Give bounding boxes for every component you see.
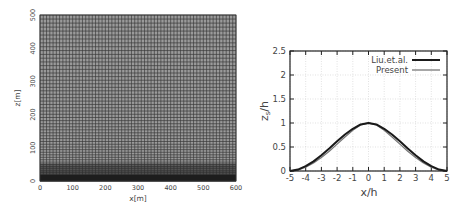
profile-y-tick: 0 bbox=[281, 166, 286, 176]
profile-x-tick: -5 bbox=[286, 173, 294, 183]
profile-plot: -5-4-3-2-1012345 00.511.522.5 Liu.et.al.… bbox=[258, 46, 450, 199]
profile-x-tick: -2 bbox=[333, 173, 341, 183]
profile-x-tick: -3 bbox=[317, 173, 325, 183]
mesh-y-tick-labels: 0100200300400500 bbox=[29, 9, 37, 183]
mesh-y-tick: 200 bbox=[29, 108, 37, 120]
profile-y-tick: 2.5 bbox=[272, 46, 286, 56]
profile-y-tick: 0.5 bbox=[272, 142, 286, 152]
profile-x-tick: 2 bbox=[397, 173, 402, 183]
profile-x-axis-label: x/h bbox=[360, 186, 377, 199]
mesh-y-axis-label: z[m] bbox=[13, 89, 22, 106]
mesh-x-tick-labels: 0100200300400500600 bbox=[38, 184, 242, 192]
mesh-x-tick: 400 bbox=[164, 184, 176, 192]
mesh-x-tick: 200 bbox=[99, 184, 111, 192]
profile-x-tick: 5 bbox=[444, 173, 449, 183]
mesh-y-tick: 100 bbox=[29, 142, 37, 154]
mesh-y-tick: 400 bbox=[29, 42, 37, 54]
legend-label-liu: Liu.et.al. bbox=[371, 55, 408, 65]
mesh-grid-lines bbox=[40, 15, 236, 181]
mesh-y-tick: 500 bbox=[29, 9, 37, 21]
profile-x-tick: 3 bbox=[413, 173, 418, 183]
profile-x-tick: 4 bbox=[429, 173, 434, 183]
mesh-x-tick: 100 bbox=[66, 184, 78, 192]
mesh-y-tick: 300 bbox=[29, 75, 37, 87]
mesh-x-tick: 0 bbox=[38, 184, 42, 192]
legend-label-present: Present bbox=[376, 65, 409, 75]
ylabel-rest: /h bbox=[258, 101, 271, 112]
mesh-x-tick: 300 bbox=[132, 184, 144, 192]
mesh-x-axis-label: x[m] bbox=[129, 194, 147, 203]
profile-x-tick: -1 bbox=[349, 173, 357, 183]
profile-y-tick: 2 bbox=[281, 70, 286, 80]
profile-y-axis-label: zs/h bbox=[258, 101, 272, 121]
profile-y-tick: 1 bbox=[281, 118, 286, 128]
profile-x-tick-labels: -5-4-3-2-1012345 bbox=[286, 173, 450, 183]
mesh-x-tick: 600 bbox=[230, 184, 242, 192]
mesh-plot: 0100200300400500600 0100200300400500 x[m… bbox=[13, 9, 242, 203]
profile-y-tick-labels: 00.511.522.5 bbox=[272, 46, 286, 176]
figure: 0100200300400500600 0100200300400500 x[m… bbox=[0, 0, 463, 214]
mesh-x-tick: 500 bbox=[197, 184, 209, 192]
profile-y-tick: 1.5 bbox=[272, 94, 286, 104]
mesh-y-tick: 0 bbox=[29, 179, 37, 183]
profile-x-tick: -4 bbox=[301, 173, 309, 183]
profile-x-tick: 0 bbox=[366, 173, 371, 183]
profile-x-tick: 1 bbox=[381, 173, 386, 183]
